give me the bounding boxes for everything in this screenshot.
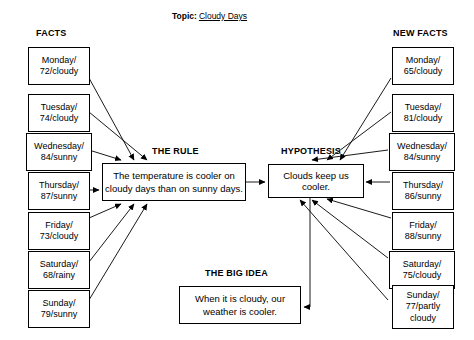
- fact-box-friday[interactable]: Friday/73/cloudy: [28, 212, 90, 250]
- fact-sunday-line1: Sunday/: [42, 298, 75, 308]
- new-fact-wednesday-line1: Wednesday/: [397, 141, 447, 151]
- new-fact-monday-line2: 65/cloudy: [404, 66, 443, 76]
- fact-box-monday[interactable]: Monday/72/cloudy: [28, 47, 90, 85]
- fact-thursday-line1: Thursday/: [39, 180, 79, 190]
- fact-box-thursday[interactable]: Thursday/87/sunny: [28, 172, 90, 210]
- rule-box[interactable]: The temperature is cooler oncloudy days …: [102, 163, 246, 201]
- new-fact-thursday-line2: 86/sunny: [405, 191, 442, 201]
- fact-box-saturday[interactable]: Saturday/68/rainy: [28, 251, 90, 289]
- fact-wednesday-line1: Wednesday/: [34, 141, 84, 151]
- the-rule-heading: THE RULE: [152, 146, 199, 156]
- arrow-fact-wednesday-to-rule: [89, 150, 121, 160]
- new-fact-friday-line1: Friday/: [409, 220, 437, 230]
- arrow-newfact-monday-to-hypothesis: [340, 78, 391, 160]
- fact-wednesday-line2: 84/sunny: [41, 152, 78, 162]
- new-fact-saturday-line2: 75/cloudy: [403, 270, 442, 280]
- new-fact-monday-line1: Monday/: [406, 55, 441, 65]
- new-fact-tuesday-line2: 81/cloudy: [404, 113, 443, 123]
- arrow-fact-tuesday-to-rule: [89, 112, 147, 160]
- new-fact-wednesday-line2: 84/sunny: [404, 152, 441, 162]
- the-big-idea-heading: THE BIG IDEA: [205, 268, 268, 278]
- new-fact-sunday-line2: 77/partly: [406, 301, 441, 311]
- rule-line1: The temperature is cooler on: [113, 170, 234, 181]
- new-facts-heading: NEW FACTS: [393, 28, 448, 38]
- topic-label: Topic:: [172, 11, 197, 21]
- fact-friday-line1: Friday/: [45, 220, 73, 230]
- arrow-fact-monday-to-rule: [89, 78, 134, 160]
- new-fact-box-monday[interactable]: Monday/65/cloudy: [392, 47, 454, 85]
- fact-thursday-line2: 87/sunny: [41, 191, 78, 201]
- graphic-organizer-diagram: Topic:Cloudy Days FACTS NEW FACTS THE RU…: [0, 0, 474, 340]
- fact-monday-line1: Monday/: [42, 55, 77, 65]
- fact-sunday-line2: 79/sunny: [41, 309, 78, 319]
- new-fact-box-friday[interactable]: Friday/88/sunny: [392, 212, 454, 250]
- new-fact-box-sunday[interactable]: Sunday/77/partlycloudy: [392, 285, 454, 329]
- arrow-fact-saturday-to-rule: [89, 204, 134, 262]
- new-fact-box-wednesday[interactable]: Wednesday/84/sunny: [389, 133, 455, 171]
- big-idea-line1: When it is cloudy, our: [195, 293, 285, 304]
- fact-friday-line2: 73/cloudy: [40, 231, 79, 241]
- fact-tuesday-line2: 74/cloudy: [40, 113, 79, 123]
- new-fact-thursday-line1: Thursday/: [403, 180, 443, 190]
- fact-saturday-line1: Saturday/: [40, 259, 79, 269]
- new-fact-box-tuesday[interactable]: Tuesday/81/cloudy: [392, 94, 454, 132]
- hypothesis-heading: HYPOTHESIS: [281, 146, 341, 156]
- new-fact-sunday-line3: cloudy: [410, 313, 436, 323]
- new-fact-friday-line2: 88/sunny: [405, 231, 442, 241]
- arrow-fact-friday-to-rule: [89, 204, 121, 218]
- arrow-newfact-friday-to-hypothesis: [327, 199, 391, 218]
- big-idea-box[interactable]: When it is cloudy, ourweather is cooler.: [179, 286, 301, 324]
- new-fact-sunday-line1: Sunday/: [406, 290, 439, 300]
- new-fact-box-saturday[interactable]: Saturday/75/cloudy: [389, 251, 455, 289]
- arrow-newfact-sunday-to-hypothesis: [300, 200, 388, 300]
- arrow-hypothesis-to-big-idea: [304, 198, 310, 307]
- fact-saturday-line2: 68/rainy: [43, 270, 75, 280]
- rule-line2: cloudy days than on sunny days.: [105, 183, 243, 194]
- topic-value: Cloudy Days: [197, 11, 247, 21]
- arrow-newfact-saturday-to-hypothesis: [312, 200, 388, 258]
- facts-heading: FACTS: [36, 28, 67, 38]
- fact-monday-line2: 72/cloudy: [40, 66, 79, 76]
- arrow-fact-sunday-to-rule: [89, 204, 147, 300]
- fact-box-wednesday[interactable]: Wednesday/84/sunny: [26, 133, 92, 171]
- new-fact-box-thursday[interactable]: Thursday/86/sunny: [392, 172, 454, 210]
- new-fact-saturday-line1: Saturday/: [403, 259, 442, 269]
- new-fact-tuesday-line1: Tuesday/: [405, 102, 442, 112]
- fact-tuesday-line1: Tuesday/: [41, 102, 78, 112]
- fact-box-tuesday[interactable]: Tuesday/74/cloudy: [28, 94, 90, 132]
- hypothesis-box[interactable]: Clouds keep us cooler.: [268, 164, 364, 198]
- fact-box-sunday[interactable]: Sunday/79/sunny: [28, 290, 90, 328]
- topic-line: Topic:Cloudy Days: [172, 11, 247, 21]
- big-idea-line2: weather is cooler.: [203, 306, 277, 317]
- hypothesis-text: Clouds keep us cooler.: [269, 170, 363, 193]
